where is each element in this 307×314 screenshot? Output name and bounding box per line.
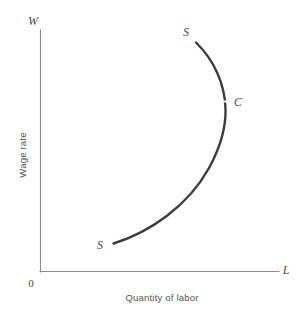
origin-label: 0 <box>28 277 34 289</box>
y-axis-title: Wage rate <box>17 132 28 177</box>
x-axis-end-label: L <box>282 263 290 277</box>
supply-curve <box>114 43 226 244</box>
curve-label-upper-s: S <box>183 25 189 39</box>
y-axis-end-label: W <box>28 14 39 28</box>
chart-canvas: W L 0 S S C Wage rate Quantity of labor <box>0 0 307 314</box>
labor-supply-chart: W L 0 S S C Wage rate Quantity of labor <box>0 0 307 314</box>
point-c-label: C <box>234 95 243 109</box>
curve-label-lower-s: S <box>97 238 103 252</box>
x-axis-title: Quantity of labor <box>125 292 198 303</box>
